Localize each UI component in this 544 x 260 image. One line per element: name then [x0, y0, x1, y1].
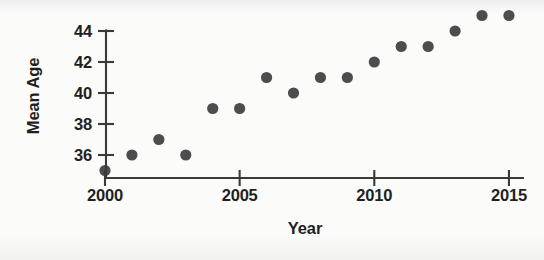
- y-axis-tick-label: 36: [54, 146, 92, 165]
- data-point: [288, 87, 299, 98]
- data-point: [153, 134, 164, 145]
- data-point: [315, 72, 326, 83]
- x-axis-tick-label: 2005: [222, 186, 258, 205]
- y-axis-title: Mean Age: [24, 58, 43, 135]
- data-point: [180, 149, 191, 160]
- data-point: [342, 72, 353, 83]
- scatter-chart: 3638404244 2000200520102015 Mean Age Yea…: [0, 0, 544, 260]
- x-axis-tick-label: 2015: [491, 186, 527, 205]
- x-axis-title: Year: [288, 219, 322, 238]
- y-axis-tick-label: 38: [54, 115, 92, 134]
- data-point: [396, 41, 407, 52]
- data-point: [476, 10, 487, 21]
- data-point: [503, 10, 514, 21]
- axes-group: [106, 29, 524, 178]
- data-point: [207, 103, 218, 114]
- data-point: [423, 41, 434, 52]
- x-axis-tick-label: 2000: [87, 186, 123, 205]
- y-axis-tick-label: 42: [54, 53, 92, 72]
- data-point: [126, 149, 137, 160]
- x-axis-tick-label: 2010: [356, 186, 392, 205]
- data-point: [234, 103, 245, 114]
- data-point: [261, 72, 272, 83]
- y-axis-tick-label: 44: [54, 22, 92, 41]
- data-points-group: [99, 10, 514, 176]
- data-point: [449, 25, 460, 36]
- y-axis-tick-label: 40: [54, 84, 92, 103]
- data-point: [369, 56, 380, 67]
